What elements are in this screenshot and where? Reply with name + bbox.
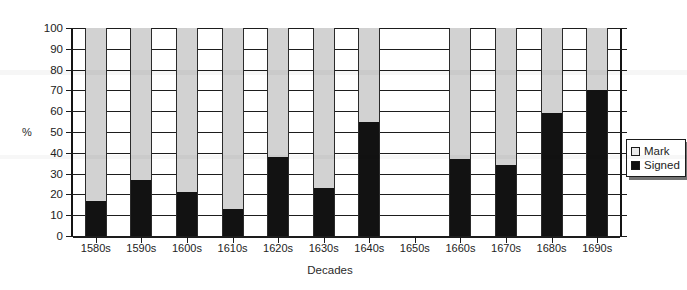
x-tick-label: 1580s bbox=[81, 242, 111, 254]
y-tick-mark bbox=[66, 153, 73, 154]
y-tick-label: 50 bbox=[37, 126, 63, 138]
y-tick-mark bbox=[66, 215, 73, 216]
x-tick-label: 1590s bbox=[126, 242, 156, 254]
bar-segment-mark[interactable] bbox=[268, 28, 288, 157]
bar-segment-signed[interactable] bbox=[131, 180, 151, 236]
y-tick-mark bbox=[66, 174, 73, 175]
y-tick-mark bbox=[66, 236, 73, 237]
x-tick-label: 1620s bbox=[263, 242, 293, 254]
x-tick-label: 1670s bbox=[491, 242, 521, 254]
bar-slot: 1580s bbox=[73, 28, 119, 236]
bar[interactable] bbox=[130, 28, 152, 236]
bar[interactable] bbox=[495, 28, 517, 236]
bar-slot: 1660s bbox=[438, 28, 484, 236]
bar-segment-signed[interactable] bbox=[450, 159, 470, 236]
y-tick-label: 70 bbox=[37, 84, 63, 96]
bar-segment-signed[interactable] bbox=[587, 90, 607, 236]
y-tick-label: 10 bbox=[37, 209, 63, 221]
legend-label: Signed bbox=[644, 158, 680, 172]
y-tick-mark bbox=[66, 70, 73, 71]
bar[interactable] bbox=[449, 28, 471, 236]
y-tick-label: 60 bbox=[37, 105, 63, 117]
bar-segment-mark[interactable] bbox=[542, 28, 562, 113]
y-tick-mark bbox=[66, 132, 73, 133]
y-tick-mark bbox=[66, 90, 73, 91]
y-tick-label: 30 bbox=[37, 168, 63, 180]
x-tick-label: 1680s bbox=[537, 242, 567, 254]
legend-swatch-mark-icon bbox=[631, 147, 640, 156]
bar[interactable] bbox=[267, 28, 289, 236]
bar-slot: 1630s bbox=[301, 28, 347, 236]
bar-slot: 1670s bbox=[483, 28, 529, 236]
bar-segment-mark[interactable] bbox=[314, 28, 334, 188]
x-tick-label: 1690s bbox=[582, 242, 612, 254]
bars-group: 1580s1590s1600s1610s1620s1630s1640s1650s… bbox=[73, 28, 620, 236]
bar-segment-mark[interactable] bbox=[177, 28, 197, 192]
y-tick-mark bbox=[66, 111, 73, 112]
bar[interactable] bbox=[85, 28, 107, 236]
x-tick-label: 1650s bbox=[400, 242, 430, 254]
stacked-bar-chart: % 0102030405060708090100 1580s1590s1600s… bbox=[0, 0, 687, 290]
bar[interactable] bbox=[586, 28, 608, 236]
y-tick-label: 0 bbox=[37, 230, 63, 242]
bar[interactable] bbox=[541, 28, 563, 236]
y-tick-mark bbox=[620, 215, 627, 216]
y-tick-mark bbox=[66, 49, 73, 50]
gridline bbox=[73, 236, 620, 238]
bar[interactable] bbox=[176, 28, 198, 236]
bar-segment-signed[interactable] bbox=[359, 122, 379, 236]
bar-slot: 1680s bbox=[529, 28, 575, 236]
bar-segment-signed[interactable] bbox=[268, 157, 288, 236]
chart-legend: MarkSigned bbox=[626, 139, 686, 177]
plot-area: 0102030405060708090100 1580s1590s1600s16… bbox=[71, 28, 622, 236]
y-tick-mark bbox=[620, 49, 627, 50]
x-tick-label: 1660s bbox=[445, 242, 475, 254]
x-tick-label: 1640s bbox=[354, 242, 384, 254]
bar-slot: 1650s bbox=[392, 28, 438, 236]
y-tick-mark bbox=[620, 70, 627, 71]
bar[interactable] bbox=[222, 28, 244, 236]
bar-segment-signed[interactable] bbox=[314, 188, 334, 236]
bar[interactable] bbox=[358, 28, 380, 236]
y-tick-mark bbox=[620, 132, 627, 133]
bar-slot: 1610s bbox=[210, 28, 256, 236]
y-tick-label: 20 bbox=[37, 188, 63, 200]
y-axis-title: % bbox=[22, 126, 32, 138]
y-tick-mark bbox=[620, 28, 627, 29]
bar-segment-mark[interactable] bbox=[359, 28, 379, 122]
bar-segment-signed[interactable] bbox=[177, 192, 197, 236]
y-tick-label: 40 bbox=[37, 147, 63, 159]
bar-slot: 1600s bbox=[164, 28, 210, 236]
bar-segment-signed[interactable] bbox=[542, 113, 562, 236]
y-tick-mark bbox=[620, 194, 627, 195]
x-axis-title: Decades bbox=[0, 264, 660, 276]
legend-swatch-signed-icon bbox=[631, 161, 640, 170]
bar-segment-mark[interactable] bbox=[223, 28, 243, 209]
y-tick-mark bbox=[66, 28, 73, 29]
x-tick-label: 1610s bbox=[218, 242, 248, 254]
bar-slot: 1590s bbox=[119, 28, 165, 236]
legend-item[interactable]: Signed bbox=[631, 158, 680, 172]
bar-segment-signed[interactable] bbox=[86, 201, 106, 236]
bar-slot: 1640s bbox=[347, 28, 393, 236]
x-tick-label: 1630s bbox=[309, 242, 339, 254]
bar[interactable] bbox=[313, 28, 335, 236]
bar-segment-mark[interactable] bbox=[86, 28, 106, 201]
bar-segment-mark[interactable] bbox=[496, 28, 516, 165]
bar-segment-signed[interactable] bbox=[223, 209, 243, 236]
bar-segment-mark[interactable] bbox=[587, 28, 607, 90]
legend-item[interactable]: Mark bbox=[631, 144, 680, 158]
y-tick-mark bbox=[620, 90, 627, 91]
bar-segment-mark[interactable] bbox=[450, 28, 470, 159]
bar-segment-signed[interactable] bbox=[496, 165, 516, 236]
y-tick-mark bbox=[620, 236, 627, 237]
y-tick-label: 80 bbox=[37, 64, 63, 76]
x-tick-label: 1600s bbox=[172, 242, 202, 254]
bar-segment-mark[interactable] bbox=[131, 28, 151, 180]
y-tick-mark bbox=[66, 194, 73, 195]
legend-label: Mark bbox=[644, 144, 670, 158]
y-tick-label: 90 bbox=[37, 43, 63, 55]
y-tick-label: 100 bbox=[37, 22, 63, 34]
bar-slot: 1620s bbox=[255, 28, 301, 236]
bar-slot: 1690s bbox=[574, 28, 620, 236]
